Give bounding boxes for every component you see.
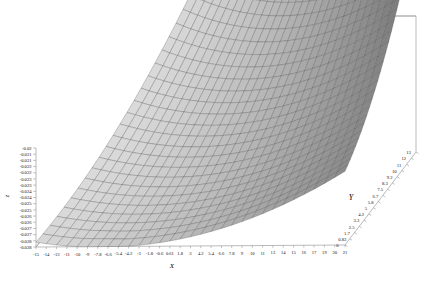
z-axis-tick-label: -0.026 bbox=[20, 220, 33, 225]
z-axis-tick-label: -0.026 bbox=[20, 214, 33, 219]
y-axis-tick-label: 9.2 bbox=[387, 175, 393, 180]
z-axis-tick-label: -0.027 bbox=[20, 226, 33, 231]
x-axis-tick-label: 21 bbox=[343, 250, 348, 255]
y-axis-tick-mark bbox=[359, 226, 361, 227]
y-axis-tick-label: 4.2 bbox=[358, 212, 364, 217]
y-axis-tick-mark bbox=[416, 152, 418, 153]
y-axis-tick-label: 0 bbox=[336, 243, 339, 248]
plot-canvas: -15-14-13-11-10-9-7.8-6.6-5.4-4.2-3-1.8-… bbox=[0, 0, 421, 283]
x-axis-tick-label: 20 bbox=[332, 250, 337, 255]
y-axis-title: Y bbox=[349, 193, 355, 202]
y-axis-tick-mark bbox=[364, 220, 366, 221]
y-axis-tick-label: 1.7 bbox=[344, 231, 350, 236]
x-axis-tick-label: 7.8 bbox=[229, 251, 235, 256]
x-axis-tick-label: 9 bbox=[241, 251, 244, 256]
x-axis-tick-label: -13 bbox=[54, 252, 61, 257]
z-axis-tick-label: -0.024 bbox=[20, 189, 33, 194]
x-axis-tick-label: 10 bbox=[250, 251, 255, 256]
y-axis-tick-label: 3.3 bbox=[354, 218, 360, 223]
y-axis-tick-mark bbox=[402, 171, 404, 172]
y-axis-tick-label: 6.7 bbox=[372, 194, 378, 199]
z-axis-tick-label: -0.022 bbox=[20, 170, 33, 175]
x-axis-tick-label: 19 bbox=[322, 250, 327, 255]
x-axis-tick-label: 5.4 bbox=[208, 251, 214, 256]
surface-plot-figure: -15-14-13-11-10-9-7.8-6.6-5.4-4.2-3-1.8-… bbox=[0, 0, 421, 283]
z-axis-tick-label: -0.028 bbox=[20, 239, 33, 244]
y-axis-tick-label: 0.83 bbox=[338, 237, 347, 242]
y-axis-tick-mark bbox=[345, 245, 347, 246]
y-axis-tick-mark bbox=[407, 164, 409, 165]
x-axis-tick-label: 11 bbox=[260, 251, 265, 256]
z-axis-tick-label: -0.023 bbox=[20, 177, 33, 182]
z-axis-title: z bbox=[4, 194, 10, 198]
x-axis-tick-label: -11 bbox=[64, 252, 71, 257]
y-axis-tick-label: 5.8 bbox=[368, 200, 374, 205]
x-axis-tick-label: -0.6 bbox=[156, 251, 164, 256]
y-axis-tick-label: 8.3 bbox=[382, 181, 388, 186]
x-axis-tick-label: 17 bbox=[312, 250, 317, 255]
z-axis-tick-label: -0.023 bbox=[20, 183, 33, 188]
x-axis-tick-label: 6.6 bbox=[219, 251, 225, 256]
x-axis-tick-label: 1.8 bbox=[177, 251, 183, 256]
x-axis-title: X bbox=[169, 262, 175, 270]
y-axis-tick-label: 2.5 bbox=[349, 225, 355, 230]
x-axis-tick-label: -4.2 bbox=[125, 251, 133, 256]
y-axis-tick-mark bbox=[369, 214, 371, 215]
y-axis-tick-mark bbox=[392, 183, 394, 184]
x-axis-tick-label: 0.61 bbox=[166, 251, 175, 256]
y-axis-tick-mark bbox=[354, 233, 356, 234]
z-axis-tick-label: -0.027 bbox=[20, 232, 33, 237]
y-axis-tick-label: 5 bbox=[365, 206, 368, 211]
x-axis-tick-label: -5.4 bbox=[115, 251, 123, 256]
z-axis-tick-label: -0.028 bbox=[20, 245, 33, 250]
z-axis-tick-label: -0.021 bbox=[20, 158, 33, 163]
z-axis-tick-label: -0.025 bbox=[20, 201, 33, 206]
x-axis-tick-label: 15 bbox=[291, 250, 296, 255]
y-axis-tick-label: 11 bbox=[397, 163, 402, 168]
y-axis-tick-mark bbox=[411, 158, 413, 159]
y-axis-tick-mark bbox=[388, 189, 390, 190]
y-axis-tick-mark bbox=[350, 239, 352, 240]
x-axis-tick-label: -1.8 bbox=[146, 251, 154, 256]
z-axis-tick-label: -0.02 bbox=[22, 146, 32, 151]
x-axis-tick-label: -15 bbox=[33, 252, 40, 257]
x-axis-tick-label: -6.6 bbox=[104, 252, 112, 257]
x-axis-tick-label: 16 bbox=[302, 250, 307, 255]
y-axis-tick-mark bbox=[378, 202, 380, 203]
y-axis-tick-mark bbox=[397, 177, 399, 178]
y-axis-tick-mark bbox=[373, 208, 375, 209]
x-axis-tick-label: -7.8 bbox=[94, 252, 102, 257]
y-axis-tick-label: 10 bbox=[392, 169, 397, 174]
z-axis-ticks: -0.02-0.021-0.021-0.022-0.022-0.023-0.02… bbox=[20, 146, 36, 250]
y-axis-tick-label: 13 bbox=[406, 150, 411, 155]
z-axis-tick-label: -0.025 bbox=[20, 208, 33, 213]
y-axis-tick-label: 7.5 bbox=[377, 187, 383, 192]
x-axis-tick-label: 13 bbox=[271, 250, 276, 255]
x-axis-tick-label: 4.2 bbox=[198, 251, 204, 256]
z-axis-tick-label: -0.024 bbox=[20, 195, 33, 200]
x-axis-tick-label: 14 bbox=[281, 250, 286, 255]
x-axis-tick-label: -14 bbox=[43, 252, 50, 257]
y-axis-tick-label: 12 bbox=[401, 156, 406, 161]
z-axis-tick-label: -0.021 bbox=[20, 152, 33, 157]
x-axis-tick-label: -9 bbox=[86, 252, 91, 257]
surface-mesh bbox=[36, 0, 416, 247]
x-axis-tick-label: -10 bbox=[74, 252, 81, 257]
z-axis-tick-label: -0.022 bbox=[20, 164, 33, 169]
x-axis-tick-label: 3 bbox=[189, 251, 192, 256]
y-axis-tick-mark bbox=[383, 195, 385, 196]
x-axis-tick-label: -3 bbox=[137, 251, 142, 256]
